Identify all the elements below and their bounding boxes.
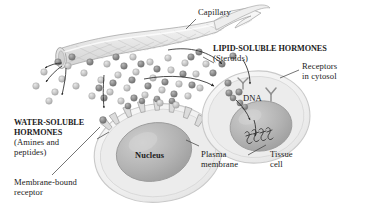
hormone-particle-light: [203, 61, 210, 68]
hormone-particle-light: [165, 55, 172, 62]
hormone-particle-light: [52, 89, 59, 96]
label-membrane-bound-line2: receptor: [14, 188, 43, 198]
hormone-particle-light: [46, 98, 53, 105]
hormone-particle-light: [142, 92, 149, 99]
hormone-particle-dark: [162, 79, 169, 86]
hormone-particle-light: [73, 83, 80, 90]
hormone-particle-light: [89, 93, 96, 100]
hormone-particle-light: [182, 60, 189, 67]
hormone-particle-dark: [113, 54, 120, 61]
arrow-to-membrane-receptor: [103, 75, 104, 108]
hormone-particle-light: [41, 69, 48, 76]
hormone-particle-dark: [101, 95, 108, 102]
label-lipid-soluble-hormones: LIPID-SOLUBLE HORMONES: [213, 44, 327, 53]
hormone-particle-light: [107, 89, 114, 96]
hormone-particle-dark: [87, 59, 94, 66]
hormone-particle-light: [130, 54, 137, 61]
hormone-particle-dark: [55, 59, 62, 66]
hormone-particle-light: [81, 70, 88, 77]
hormone-particle-light: [197, 85, 204, 92]
hormone-particle-light: [133, 69, 140, 76]
hormone-particle-dark: [69, 54, 76, 61]
figure-canvas: Capillary LIPID-SOLUBLE HORMONES (Steroi…: [0, 0, 365, 216]
hormone-particle-dark: [236, 89, 243, 96]
label-receptors-line2: in cytosol: [302, 72, 337, 82]
hormone-particle-light: [176, 81, 183, 88]
label-water-soluble-line2: HORMONES: [14, 128, 62, 137]
label-capillary: Capillary: [198, 8, 231, 18]
hormone-particle-dark: [129, 77, 136, 84]
label-nucleus: Nucleus: [135, 151, 164, 160]
hormone-particle-light: [185, 93, 192, 100]
hormone-particle-dark: [138, 61, 145, 68]
label-plasma-line2: membrane: [201, 160, 238, 170]
label-dna: DNA: [243, 94, 262, 104]
hormone-particle-dark: [154, 66, 161, 73]
label-lipid-soluble-sub: (Steroids): [213, 54, 248, 64]
hormone-particle-light: [33, 83, 40, 90]
label-tissue-line2: cell: [270, 160, 283, 170]
leader-receptors: [280, 70, 299, 78]
hormone-particle-dark: [131, 95, 138, 102]
hormone-particle-light: [104, 61, 111, 68]
hormone-particle-light: [173, 102, 180, 109]
hormone-particle-dark: [96, 85, 103, 92]
hormone-particle-light: [118, 98, 125, 105]
hormone-particle-dark: [225, 80, 232, 87]
hormone-particle-light: [115, 72, 122, 79]
label-water-soluble-line1: WATER-SOLUBLE: [14, 118, 84, 127]
hormone-particle-light: [157, 100, 164, 107]
hormone-particle-light: [159, 87, 166, 94]
hormone-particle-dark: [145, 83, 152, 90]
hormone-particle-dark: [189, 82, 196, 89]
hormone-particle-light: [147, 59, 154, 66]
hormone-particle-dark: [110, 80, 117, 87]
hormone-particle-light: [193, 71, 200, 78]
hormone-particle-light: [168, 67, 175, 74]
hormone-particle-light: [124, 85, 131, 92]
hormone-particle-dark: [171, 91, 178, 98]
label-water-soluble-line4: peptides): [14, 148, 46, 158]
hormone-particle-dark: [121, 63, 128, 70]
hormone-particle-dark: [210, 70, 217, 77]
hormone-particle-dark: [180, 71, 187, 78]
hormone-particle-dark: [188, 54, 195, 61]
